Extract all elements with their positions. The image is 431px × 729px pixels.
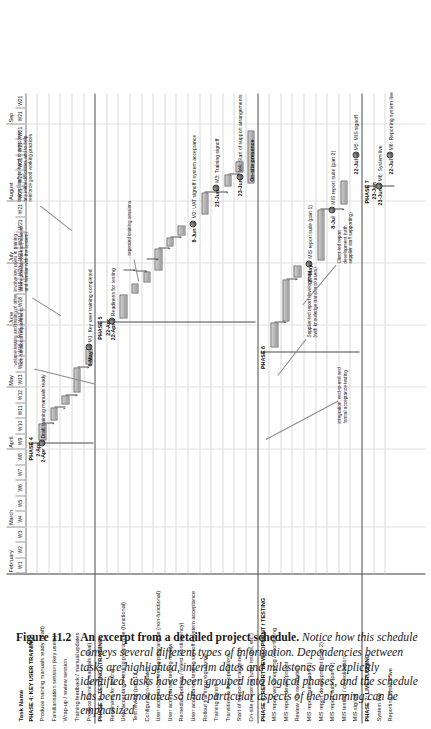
phase-marker-label: PHASE 5: [96, 316, 102, 339]
milestone-marker: [352, 151, 359, 158]
row-gridline: [245, 93, 246, 573]
month-label: February: [6, 527, 15, 573]
gantt-bar: [317, 209, 324, 260]
milestone-marker: [38, 439, 45, 446]
phase-span-bracket: [260, 351, 360, 352]
row-gridline: [373, 93, 374, 573]
milestone-date: 22-Jul: [352, 159, 358, 174]
week-label: W2: [15, 542, 25, 557]
row-gridline: [222, 93, 223, 573]
dependency-arrow: [226, 191, 228, 193]
phase-span-bracket: [97, 321, 255, 322]
chart-annotation: integration, end-to-end and formal accep…: [336, 367, 347, 423]
week-label: W21: [15, 109, 25, 124]
dependency-arrow: [75, 394, 77, 396]
milestone-date: 21-Jun: [213, 189, 219, 206]
week-label: W6: [15, 480, 25, 495]
milestone-label: M1: Key user training completed: [86, 269, 92, 342]
row-gridline: [268, 93, 269, 573]
month-gridline: [25, 324, 426, 325]
gantt-bar: [224, 174, 231, 186]
row-gridline: [187, 93, 188, 573]
milestone-date: 8-Jun: [190, 228, 196, 242]
dependency-arrow: [63, 407, 65, 409]
chart-annotation: trained staff on-hand to overcome any in…: [16, 131, 33, 201]
gantt-bar: [282, 279, 289, 321]
dependency-arrow: [87, 366, 89, 368]
milestone-date: 23-Jun: [376, 188, 382, 205]
gantt-chart: Task Name PHASE 4: KEY USER TRAININGProd…: [6, 93, 425, 723]
gantt-bar: [177, 225, 184, 236]
row-gridline: [199, 93, 200, 573]
dependency-arrow: [342, 208, 344, 210]
chart-annotation: Supplier-led report development (with kn…: [306, 267, 317, 337]
week-label: W10: [15, 418, 25, 433]
dependency-arrow: [179, 236, 181, 238]
row-gridline: [326, 93, 327, 573]
milestone-label: M5: MIS signoff: [352, 115, 358, 150]
dependency-arrow: [145, 270, 147, 272]
dependency-arrow: [295, 278, 297, 280]
week-label: W12: [15, 387, 25, 402]
figure-number: Figure 11.2: [16, 631, 80, 644]
row-gridline: [164, 93, 165, 573]
row-gridline: [94, 93, 95, 573]
month-gridline: [25, 123, 426, 124]
dependency-arrow: [168, 247, 170, 249]
gantt-bar: [270, 322, 277, 347]
milestone-label: M4: Start of support arrangements: [236, 94, 242, 172]
week-label: W1: [15, 558, 25, 573]
timeline-grid: FebruaryMarchAprilMayJuneJulyAugustSep W…: [6, 93, 425, 573]
annotation-leader-line: [39, 205, 71, 230]
week-label: W13: [15, 372, 25, 387]
month-gridline: [25, 386, 426, 387]
row-gridline: [280, 93, 281, 573]
week-label: W11: [15, 403, 25, 418]
rotated-figure-wrapper: Task Name PHASE 4: KEY USER TRAININGProd…: [0, 0, 431, 729]
month-label: April: [6, 387, 15, 449]
dependency-arrow: [52, 422, 54, 424]
row-gridline: [59, 93, 60, 573]
month-label: August: [6, 124, 15, 201]
phase-marker-label: PHASE 7: [363, 180, 369, 203]
chart-annotation: volume testing and testing of other non-…: [12, 293, 23, 365]
on-site-presence-label: On-site presence: [248, 139, 254, 181]
milestone-marker: [386, 151, 393, 158]
dependency-arrow: [284, 321, 286, 323]
month-label: March: [6, 449, 15, 526]
gantt-bar: [201, 192, 208, 214]
week-label: W4: [15, 511, 25, 526]
row-gridline: [361, 93, 362, 573]
dependency-arrow: [156, 258, 158, 260]
row-gridline: [36, 93, 37, 573]
figure-caption: Figure 11.2 An excerpt from a detailed p…: [16, 631, 423, 719]
row-gridline: [129, 93, 130, 573]
milestone-label: Readiness for testing: [109, 268, 115, 316]
chart-annotation: Client-led report development (with supp…: [336, 212, 353, 263]
milestone-date: 2-Apr: [39, 448, 45, 462]
gantt-bar: [340, 180, 347, 205]
milestone-date: 23-Jun: [236, 179, 242, 196]
month-gridline: [25, 448, 426, 449]
row-gridline: [233, 93, 234, 573]
figure-sheet: Task Name PHASE 4: KEY USER TRAININGProd…: [0, 0, 431, 729]
week-label: W21: [15, 93, 25, 108]
gantt-bar: [131, 283, 138, 292]
row-gridline: [117, 93, 118, 573]
gantt-bar: [293, 265, 300, 277]
milestone-marker: [189, 220, 196, 227]
milestone-label: MIS report suite (part 1): [306, 205, 312, 259]
row-gridline: [152, 93, 153, 573]
milestone-date: 6-May: [86, 351, 92, 366]
row-gridline: [71, 93, 72, 573]
milestone-label: M6: Reporting system live: [387, 91, 393, 150]
row-gridline: [141, 93, 142, 573]
milestone-label: M6: System live: [376, 145, 382, 181]
gantt-bar: [166, 237, 173, 246]
row-gridline: [257, 93, 258, 573]
row-gridline: [175, 93, 176, 573]
chart-annotation: involve key users in training where poss…: [12, 226, 29, 291]
week-label: W7: [15, 465, 25, 480]
milestone-marker: [328, 206, 335, 213]
gantt-bar: [61, 395, 68, 404]
